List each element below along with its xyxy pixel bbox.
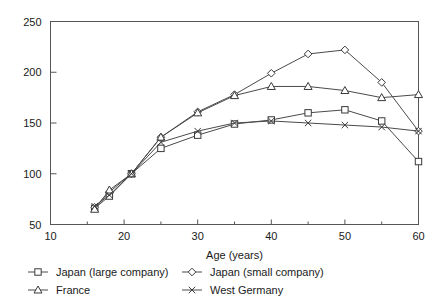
y-tick-label: 200 (23, 66, 41, 78)
data-point-marker (231, 121, 237, 127)
y-tick-label: 150 (23, 117, 41, 129)
chart-canvas: 102030405060 50100150200250 Age (years) … (0, 0, 438, 304)
legend-entry: Japan (small company) (182, 266, 324, 278)
data-point-marker (415, 158, 421, 164)
legend-entry: Japan (large company) (28, 266, 169, 278)
data-point-marker (268, 69, 276, 77)
data-point-marker (342, 107, 348, 113)
data-point-marker (158, 145, 164, 151)
legend-label: France (56, 284, 90, 296)
chart-legend: Japan (large company)Japan (small compan… (28, 266, 324, 296)
x-axis-tick-labels: 102030405060 (44, 230, 424, 242)
legend-marker (35, 269, 41, 275)
legend-entry: West Germany (182, 284, 284, 296)
x-tick-label: 10 (44, 230, 56, 242)
x-tick-label: 60 (412, 230, 424, 242)
data-point-marker (268, 117, 274, 123)
data-point-marker (415, 91, 423, 98)
y-tick-label: 100 (23, 168, 41, 180)
series-1 (91, 46, 422, 211)
x-tick-label: 20 (118, 230, 130, 242)
legend-label: West Germany (210, 284, 284, 296)
y-tick-label: 50 (29, 219, 41, 231)
x-tick-label: 40 (265, 230, 277, 242)
y-tick-label: 250 (23, 16, 41, 28)
x-tick-label: 50 (339, 230, 351, 242)
legend-label: Japan (large company) (56, 266, 169, 278)
y-axis-tick-labels: 50100150200250 (23, 16, 41, 231)
series-layer (91, 46, 423, 212)
series-2 (91, 82, 423, 212)
series-line (95, 50, 419, 207)
data-point-marker (379, 118, 385, 124)
series-0 (91, 107, 421, 212)
series-line (95, 86, 419, 209)
x-tick-label: 30 (192, 230, 204, 242)
data-point-marker (305, 110, 311, 116)
legend-label: Japan (small company) (210, 266, 324, 278)
y-axis-ticks (51, 22, 57, 225)
series-3 (91, 118, 421, 210)
data-point-marker (304, 50, 312, 58)
x-axis-ticks (51, 220, 419, 225)
line-chart: 102030405060 50100150200250 Age (years) … (0, 0, 438, 304)
x-axis-title: Age (years) (206, 249, 263, 261)
legend-marker (188, 268, 196, 276)
legend-entry: France (28, 284, 90, 296)
